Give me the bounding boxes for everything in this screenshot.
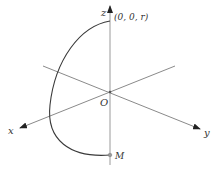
- top-point-label: (0, 0, r): [114, 12, 149, 22]
- y-axis-label: y: [203, 127, 210, 138]
- z-axis-label: z: [100, 7, 107, 18]
- x-axis-label: x: [8, 125, 14, 136]
- origin-label: O: [100, 97, 108, 108]
- point-m-label: M: [114, 151, 125, 161]
- point-m: [108, 153, 112, 157]
- origin-point: [109, 91, 112, 94]
- coordinate-diagram: z (0, 0, r) O x y M: [0, 0, 218, 171]
- x-axis: [20, 66, 175, 128]
- y-axis: [43, 66, 200, 129]
- curve: [50, 21, 110, 155]
